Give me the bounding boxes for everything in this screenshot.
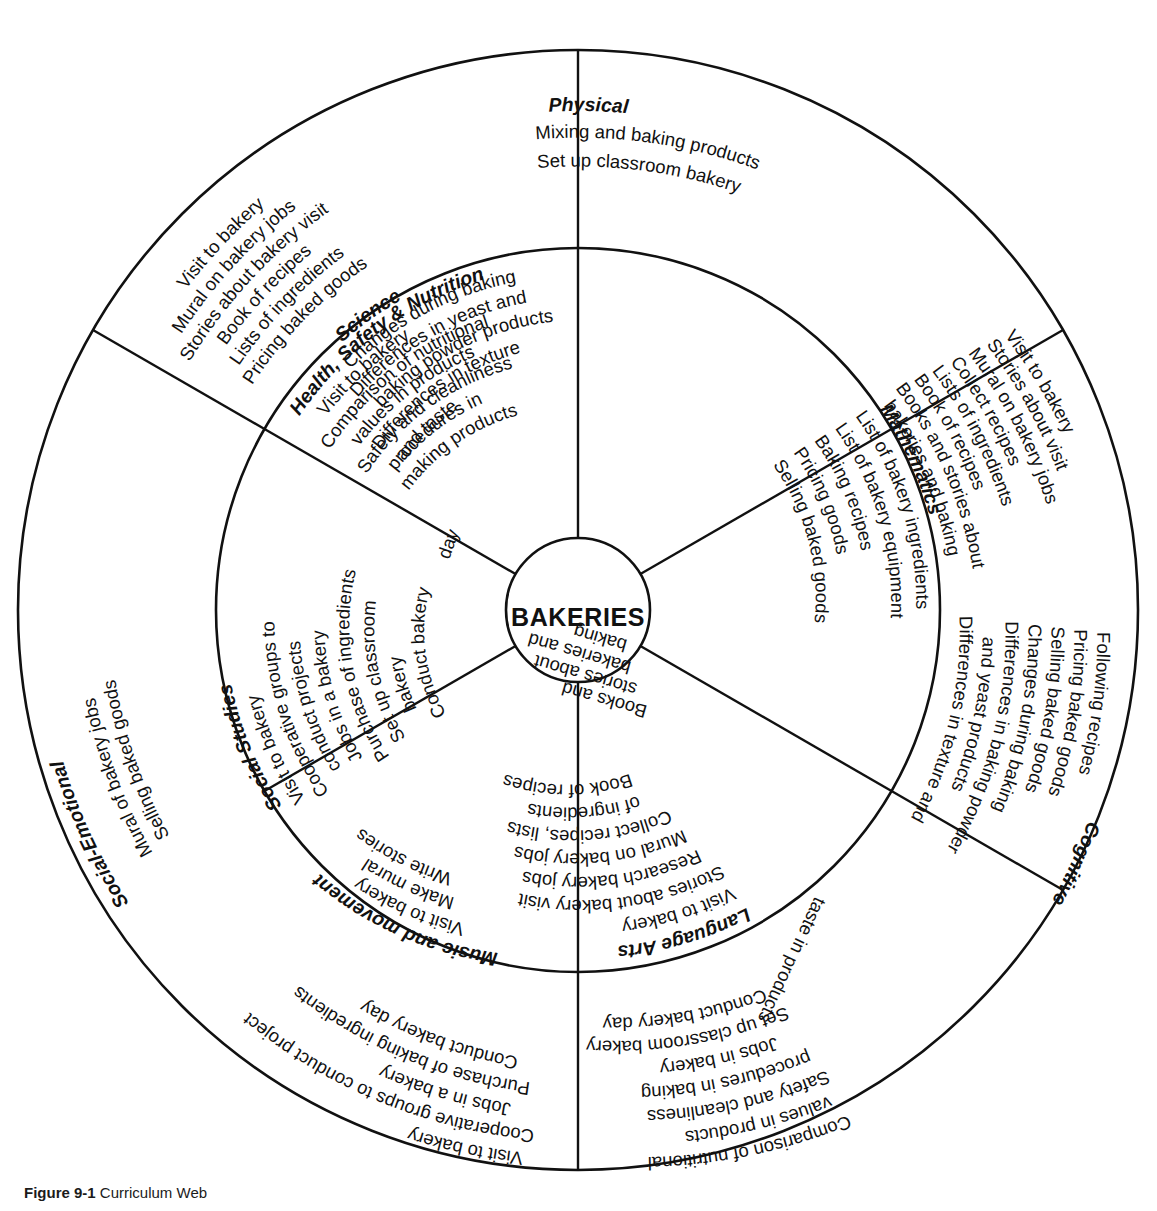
sector-social-studies: Social Studies Visit to bakery Cooperati…	[213, 525, 463, 815]
sector-language-arts-tail: Books and stories about bakeries and bak…	[525, 621, 649, 722]
sector-heading-physical: Physical	[548, 93, 630, 117]
sector-language-arts: Language Arts Visit to bakery Stories ab…	[500, 770, 755, 964]
figure-caption-text: Curriculum Web	[100, 1184, 207, 1201]
curriculum-web-svg: BAKERIES Science Changes during baking D…	[0, 0, 1157, 1211]
sector-item: taste in products	[754, 894, 830, 1026]
sector-social-emotional: Social-Emotional Mural of bakery jobs Se…	[45, 678, 173, 912]
sector-cognitive-lower: Comparison of nutritional values in prod…	[585, 985, 855, 1174]
sector-physical: Physical Mixing and baking products Set …	[535, 93, 764, 197]
sector-music-and-movement: Music and movement Visit to bakery Make …	[306, 825, 498, 971]
diagram-canvas: BAKERIES Science Changes during baking D…	[0, 0, 1157, 1211]
sector-cognitive-upper: Visit to bakery Stories about visit Mura…	[880, 325, 1080, 569]
sector-heading-cognitive: Cognitive	[1048, 819, 1105, 910]
figure-caption: Figure 9-1 Curriculum Web	[24, 1184, 207, 1210]
sector-social-emotional-lower: Visit to bakery Cooperative groups to co…	[239, 982, 535, 1169]
sector-item: Book of recipes	[500, 770, 636, 802]
sector-item: day	[433, 525, 463, 561]
figure-caption-label: Figure 9-1	[24, 1184, 96, 1201]
